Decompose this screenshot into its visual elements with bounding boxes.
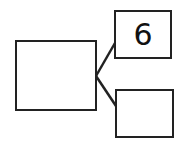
connector-line-top [96,43,115,76]
whole-box[interactable] [15,40,97,111]
part-top-value: 6 [133,17,152,52]
part-box-top[interactable]: 6 [114,10,172,59]
part-box-bottom[interactable] [115,89,174,138]
connector-line-bottom [96,76,116,106]
